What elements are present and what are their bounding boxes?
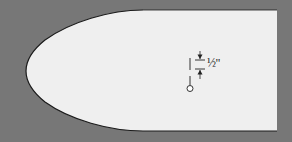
template-shape bbox=[0, 0, 292, 142]
dimension-label: ½" bbox=[207, 56, 220, 71]
hole-icon bbox=[187, 86, 193, 92]
diagram-canvas: ½" bbox=[0, 0, 292, 142]
